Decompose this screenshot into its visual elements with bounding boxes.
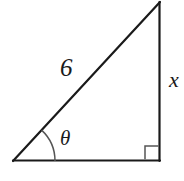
right-angle-marker (145, 146, 158, 159)
triangle-drawing (0, 0, 184, 181)
hypotenuse-line (13, 2, 160, 161)
angle-arc (42, 130, 55, 161)
right-triangle-diagram: 6 x θ (0, 0, 184, 181)
vertical-leg-label: x (169, 69, 179, 91)
angle-label-theta: θ (60, 128, 70, 149)
hypotenuse-label: 6 (60, 55, 73, 80)
